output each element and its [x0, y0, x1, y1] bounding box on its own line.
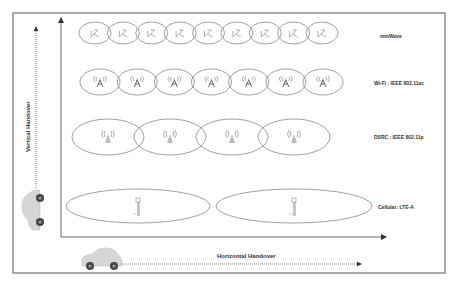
coverage-cell [266, 69, 306, 95]
mmwave-antenna-icon [119, 30, 127, 37]
mmwave-antenna-icon [148, 30, 156, 37]
wifi-access-point-icon [279, 76, 292, 87]
mmwave-antenna-icon [205, 30, 213, 37]
wifi-access-point-icon [317, 76, 330, 87]
vertical-handover-label: Vertical Handover [25, 101, 31, 152]
wifi-access-point-icon [168, 76, 181, 87]
mmwave-antenna-icon [261, 30, 269, 37]
layer-label-mmwave: mmWave [380, 33, 402, 39]
mmwave-antenna-icon [318, 30, 326, 37]
wifi-access-point-icon [242, 76, 255, 87]
layer-label-dsrc: DSRC : IEEE 802.11p [374, 134, 423, 140]
mmwave-antenna-icon [91, 30, 99, 37]
layer-wifi [80, 69, 343, 95]
coverage-cell [303, 69, 343, 95]
coverage-cell [229, 69, 269, 95]
dsrc-radio-tower-icon [102, 130, 115, 143]
cell-tower-icon [289, 198, 296, 216]
wifi-access-point-icon [94, 76, 107, 87]
coverage-cell [192, 69, 232, 95]
wifi-access-point-icon [131, 76, 144, 87]
layer-label-cellular: Cellular: LTE-A [378, 204, 414, 210]
mmwave-antenna-icon [176, 30, 184, 37]
mmwave-antenna-icon [290, 30, 298, 37]
dsrc-radio-tower-icon [288, 130, 301, 143]
coverage-cell [117, 69, 157, 95]
car-icon [22, 190, 44, 230]
layer-mmwave [79, 22, 338, 44]
horizontal-handover-label: Horizontal Handover [217, 253, 276, 259]
dsrc-radio-tower-icon [226, 130, 239, 143]
dsrc-radio-tower-icon [164, 130, 177, 143]
layer-dsrc [72, 119, 330, 155]
car-icon [82, 248, 122, 270]
layer-label-wifi: Wi-Fi : IEEE 802.11ac [374, 80, 424, 86]
layer-cellular [66, 189, 372, 223]
mmwave-antenna-icon [233, 30, 241, 37]
cell-tower-icon [133, 198, 140, 216]
handover-diagram: mmWave Wi-Fi : IEEE 802.11ac DSRC : IEEE… [0, 0, 457, 288]
coverage-cell [154, 69, 194, 95]
coverage-cell [80, 69, 120, 95]
wifi-access-point-icon [205, 76, 218, 87]
